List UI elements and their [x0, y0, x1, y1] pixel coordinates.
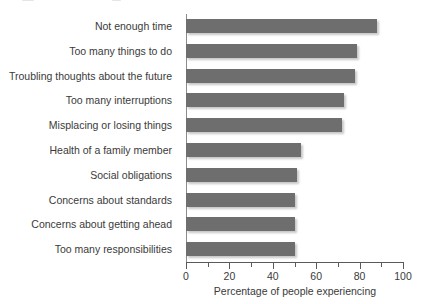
bar-row — [186, 88, 403, 113]
category-label: Too many responsibilities — [0, 237, 180, 262]
bar — [186, 118, 342, 132]
bar-row — [186, 212, 403, 237]
x-tick-minor — [295, 263, 296, 267]
category-axis-labels: Not enough time Too many things to do Tr… — [0, 14, 180, 262]
bar-row — [186, 39, 403, 64]
plot-area — [186, 14, 403, 262]
category-label: Misplacing or losing things — [0, 113, 180, 138]
category-label: Concerns about getting ahead — [0, 212, 180, 237]
x-tick-minor — [251, 263, 252, 267]
category-label: Not enough time — [0, 14, 180, 39]
x-tick-minor — [208, 263, 209, 267]
x-tick-label: 40 — [267, 270, 279, 282]
bar-row — [186, 237, 403, 262]
x-tick-minor — [338, 263, 339, 267]
x-tick-major — [316, 263, 317, 269]
bar-row — [186, 64, 403, 89]
category-label: Too many interruptions — [0, 88, 180, 113]
bar — [186, 19, 377, 33]
bar — [186, 143, 301, 157]
x-tick-label: 60 — [310, 270, 322, 282]
bar — [186, 168, 297, 182]
x-tick-major — [229, 263, 230, 269]
x-tick-minor — [381, 263, 382, 267]
bar-row — [186, 163, 403, 188]
x-tick-major — [403, 263, 404, 269]
x-tick-label: 20 — [224, 270, 236, 282]
category-label: Concerns about standards — [0, 188, 180, 213]
bar — [186, 44, 357, 58]
bar — [186, 93, 344, 107]
bar-row — [186, 138, 403, 163]
category-label: Health of a family member — [0, 138, 180, 163]
x-tick-label: 100 — [394, 270, 412, 282]
bar-row — [186, 14, 403, 39]
bar-row — [186, 188, 403, 213]
x-tick-label: 0 — [183, 270, 189, 282]
bar — [186, 193, 295, 207]
bar-series — [186, 14, 403, 262]
cropped-title-artifact — [0, 0, 421, 8]
category-label: Too many things to do — [0, 39, 180, 64]
bar-chart: Not enough time Too many things to do Tr… — [0, 0, 421, 304]
x-tick-major — [360, 263, 361, 269]
bar — [186, 217, 295, 231]
bar-row — [186, 113, 403, 138]
x-tick-major — [273, 263, 274, 269]
category-label: Troubling thoughts about the future — [0, 64, 180, 89]
x-tick-major — [186, 263, 187, 269]
bar — [186, 242, 295, 256]
x-axis-title: Percentage of people experiencing — [186, 285, 404, 297]
bar — [186, 69, 355, 83]
category-label: Social obligations — [0, 163, 180, 188]
x-tick-label: 80 — [354, 270, 366, 282]
